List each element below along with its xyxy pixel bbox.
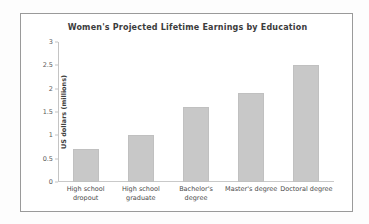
bar[interactable] — [238, 93, 264, 182]
x-tick-label: Master's degree — [224, 185, 279, 203]
y-tick-label: 2.5 — [43, 61, 53, 69]
bar-slot — [224, 42, 279, 182]
bar-slot — [58, 42, 113, 182]
bar[interactable] — [73, 149, 99, 182]
x-tick-label: Doctoral degree — [279, 185, 334, 203]
y-tick-label: 1.5 — [43, 108, 53, 116]
chart-figure: Women's Projected Lifetime Earnings by E… — [20, 13, 353, 212]
bar[interactable] — [293, 65, 319, 182]
y-tick-label: 2 — [49, 85, 53, 93]
y-tick-label: 1 — [49, 131, 53, 139]
y-tick-label: 3 — [49, 38, 53, 46]
bar-slot — [168, 42, 223, 182]
chart-title: Women's Projected Lifetime Earnings by E… — [21, 23, 354, 32]
y-tick-label: 0.5 — [43, 155, 53, 163]
bar[interactable] — [128, 135, 154, 182]
bar[interactable] — [183, 107, 209, 182]
x-tick-label: Bachelor's degree — [168, 185, 223, 203]
bar-slot — [279, 42, 334, 182]
bar-series — [58, 42, 334, 182]
x-tick-label: High school graduate — [113, 185, 168, 203]
bar-slot — [113, 42, 168, 182]
y-tick-label: 0 — [49, 178, 53, 186]
x-axis-labels: High school dropoutHigh school graduateB… — [58, 185, 334, 203]
plot-area: US dollars (millions) 00.511.522.53 — [58, 42, 334, 182]
x-tick-label: High school dropout — [58, 185, 113, 203]
